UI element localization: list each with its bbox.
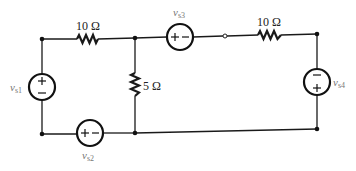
voltage-source-vs3 bbox=[167, 24, 193, 50]
voltage-source-vs1 bbox=[29, 74, 55, 100]
vs4-label: vs4 bbox=[333, 76, 345, 90]
node-bottom-middle bbox=[133, 131, 138, 136]
voltage-source-vs2 bbox=[77, 120, 103, 146]
resistor-r1-icon bbox=[77, 35, 98, 43]
resistor-r3-label: 10 Ω bbox=[257, 15, 281, 29]
resistor-r3-icon bbox=[258, 31, 281, 39]
resistor-r2-icon bbox=[131, 73, 139, 96]
vs2-label: vs2 bbox=[82, 149, 94, 163]
vs3-label: vs3 bbox=[173, 6, 185, 20]
wire-top-right-a bbox=[227, 35, 258, 36]
open-terminal-icon bbox=[223, 34, 227, 38]
wire-top-left-b bbox=[98, 38, 135, 39]
voltage-source-vs4 bbox=[304, 69, 330, 95]
node-top-left bbox=[40, 37, 45, 42]
circuit-diagram: 10 Ω 10 Ω 5 Ω bbox=[0, 0, 356, 171]
resistor-r1-label: 10 Ω bbox=[76, 19, 100, 33]
wire-top-right-b bbox=[281, 34, 317, 35]
node-bottom-left bbox=[40, 132, 45, 137]
source-circle-icon bbox=[167, 24, 193, 50]
wire-top-mid-b bbox=[193, 36, 223, 37]
wire-top-mid-a bbox=[135, 37, 167, 38]
node-top-middle bbox=[133, 36, 138, 41]
node-bottom-right bbox=[315, 127, 320, 132]
source-circle-icon bbox=[77, 120, 103, 146]
node-top-right bbox=[315, 32, 320, 37]
wire-bottom-right bbox=[135, 129, 317, 133]
vs1-label: vs1 bbox=[10, 81, 22, 95]
resistor-r2-label: 5 Ω bbox=[143, 79, 161, 93]
